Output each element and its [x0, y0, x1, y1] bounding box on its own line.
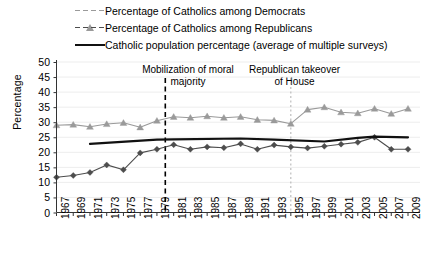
y-tick-label: 0	[28, 208, 50, 218]
x-tick-label: 1973	[111, 196, 121, 218]
x-tick-label: 1971	[94, 196, 104, 218]
x-tick-label: 1981	[178, 196, 188, 218]
x-tick-label: 1983	[194, 196, 204, 218]
gridlines	[57, 62, 421, 197]
y-tick-label: 15	[28, 162, 50, 172]
x-tick-label: 1977	[144, 196, 154, 218]
y-tick-label: 30	[28, 117, 50, 127]
chart-container: Percentage of Catholics among Democrats …	[0, 0, 435, 254]
y-tick-label: 5	[28, 192, 50, 202]
x-tick-label: 1969	[77, 196, 87, 218]
y-tick-label: 50	[28, 57, 50, 67]
x-tick-label: 2007	[395, 196, 405, 218]
y-tick-label: 25	[28, 132, 50, 142]
x-tick-label: 2009	[412, 196, 422, 218]
y-tick-label: 20	[28, 147, 50, 157]
y-tick-label: 10	[28, 177, 50, 187]
x-tick-label: 1993	[278, 196, 288, 218]
x-tick-label: 2005	[379, 196, 389, 218]
x-tick-label: 1985	[211, 196, 221, 218]
x-tick-label: 1999	[328, 196, 338, 218]
x-tick-label: 1975	[127, 196, 137, 218]
x-tick-label: 1991	[261, 196, 271, 218]
y-tick-label: 45	[28, 72, 50, 82]
x-tick-label: 2001	[345, 196, 355, 218]
x-tick-label: 1987	[228, 196, 238, 218]
x-tick-label: 1997	[312, 196, 322, 218]
x-tick-label: 1989	[245, 196, 255, 218]
y-tick-label: 40	[28, 87, 50, 97]
data-series-group	[53, 104, 411, 180]
x-tick-label: 2003	[362, 196, 372, 218]
x-tick-label: 1995	[295, 196, 305, 218]
x-tick-label: 1979	[161, 196, 171, 218]
x-tick-label: 1967	[61, 196, 71, 218]
y-tick-label: 35	[28, 102, 50, 112]
